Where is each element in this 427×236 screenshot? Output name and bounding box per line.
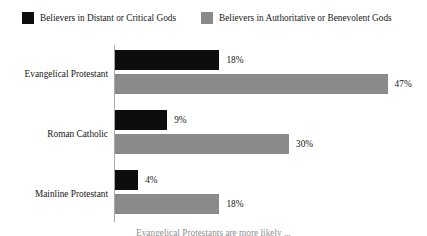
chart-caption: Evangelical Protestants are more likely … (0, 228, 427, 236)
bar-distant-critical (115, 50, 219, 70)
bar-value-label: 4% (145, 170, 157, 190)
bar-value-label: 47% (395, 74, 412, 94)
legend-swatch-distant-critical (22, 12, 34, 24)
bar-authoritative-benevolent (115, 194, 219, 214)
chart-plot-area: Evangelical Protestant 18% 47% Roman Cat… (0, 40, 427, 225)
category-label: Evangelical Protestant (0, 68, 108, 80)
bar-distant-critical (115, 170, 138, 190)
bar-group: Mainline Protestant 4% 18% (0, 168, 427, 228)
bar-row: 18% (115, 194, 243, 214)
bar-row: 47% (115, 74, 412, 94)
chart-legend: Believers in Distant or Critical Gods Be… (0, 9, 427, 27)
category-label: Mainline Protestant (0, 188, 108, 200)
bar-distant-critical (115, 110, 167, 130)
bar-group: Evangelical Protestant 18% 47% (0, 48, 427, 108)
legend-swatch-authoritative-benevolent (201, 12, 213, 24)
bar-value-label: 30% (296, 134, 313, 154)
bar-value-label: 18% (226, 50, 243, 70)
bar-group: Roman Catholic 9% 30% (0, 108, 427, 168)
bar-row: 4% (115, 170, 158, 190)
bar-authoritative-benevolent (115, 74, 388, 94)
legend-label-distant-critical: Believers in Distant or Critical Gods (40, 12, 176, 24)
bar-value-label: 9% (174, 110, 186, 130)
bar-row: 30% (115, 134, 313, 154)
bar-row: 9% (115, 110, 187, 130)
legend-item-distant-critical: Believers in Distant or Critical Gods (22, 9, 176, 27)
bar-value-label: 18% (226, 194, 243, 214)
legend-item-authoritative-benevolent: Believers in Authoritative or Benevolent… (201, 9, 392, 27)
bar-authoritative-benevolent (115, 134, 289, 154)
category-label: Roman Catholic (0, 128, 108, 140)
legend-label-authoritative-benevolent: Believers in Authoritative or Benevolent… (219, 12, 392, 24)
bar-row: 18% (115, 50, 243, 70)
